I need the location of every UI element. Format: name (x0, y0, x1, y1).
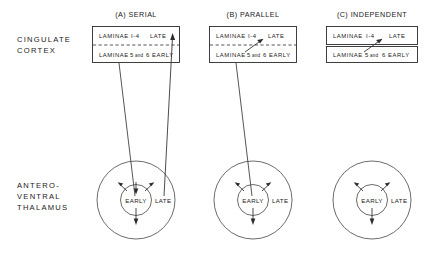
laminae-lower-timing-serial: EARLY (152, 52, 174, 58)
thalamus-radiating-arrows-serial (118, 182, 155, 225)
connection-line-early-parallel (236, 63, 252, 196)
laminae-lower-num1-serial: 5 (130, 52, 134, 58)
cortex-box-independent: LAMINAE I-4 LATE LAMINAE 5 and 6 EARLY (327, 27, 418, 63)
region-label-cingulate-cortex: CINGULATE CORTEX (17, 35, 71, 55)
thalamus-independent: EARLY LATE (333, 161, 411, 239)
thalamus-label-line3: THALAMUS (17, 203, 68, 212)
laminae-upper-timing-independent: LATE (389, 33, 406, 39)
laminae-lower-num2-independent: 6 (382, 52, 386, 58)
radiating-arrow-upleft-head-independent (354, 182, 360, 186)
laminae-lower-conj-parallel: and (252, 53, 261, 58)
panel-title-serial: (A) SERIAL (115, 10, 157, 19)
connection-early-ascending-serial (119, 63, 135, 196)
laminae-upper-label-serial: LAMINAE (99, 33, 129, 39)
thalamus-radiating-arrows-parallel (235, 182, 272, 225)
radiating-arrow-upleft-head-parallel (235, 182, 241, 186)
laminae-upper-timing-serial: LATE (150, 33, 167, 39)
thalamus-radiating-arrows-independent (354, 182, 391, 225)
thalamus-outer-label-independent: LATE (391, 197, 407, 204)
cortex-label-line1: CINGULATE (17, 35, 71, 44)
region-label-anteroventral-thalamus: ANTERO- VENTRAL THALAMUS (17, 181, 68, 212)
thalamus-serial: EARLY LATE (97, 161, 175, 239)
thalamus-label-line1: ANTERO- (17, 181, 60, 190)
radiating-arrow-down-head-parallel (251, 219, 256, 226)
laminae-upper-range-parallel: I-4 (248, 33, 257, 39)
laminae-lower-timing-parallel: EARLY (269, 52, 291, 58)
intracortical-arrow-parallel (245, 39, 264, 52)
laminae-upper-label-parallel: LAMINAE (216, 33, 246, 39)
cortex-label-line2: CORTEX (17, 46, 56, 55)
laminae-lower-num2-serial: 6 (146, 52, 150, 58)
laminae-lower-label-parallel: LAMINAE (216, 52, 246, 58)
radiating-arrow-down-head-independent (370, 219, 375, 226)
laminae-lower-conj-independent: and (370, 53, 379, 58)
cortex-box-serial: LAMINAE I-4 LATE LAMINAE 5 and 6 EARLY (93, 27, 180, 63)
diagram-svg: CINGULATE CORTEX ANTERO- VENTRAL THALAMU… (0, 0, 444, 256)
laminae-lower-num2-parallel: 6 (263, 52, 267, 58)
panel-title-independent: (C) INDEPENDENT (337, 10, 407, 19)
connection-early-ascending-parallel (236, 63, 252, 196)
radiating-arrow-upright-head-independent (385, 182, 391, 186)
thalamus-inner-label-serial: EARLY (125, 197, 147, 204)
panel-serial: (A) SERIAL LAMINAE I-4 LATE LAMINAE 5 an… (93, 10, 180, 239)
radiating-arrow-upleft-head-serial (118, 182, 124, 186)
thalamus-inner-label-parallel: EARLY (242, 197, 264, 204)
laminae-lower-label-independent: LAMINAE (333, 52, 363, 58)
laminae-upper-timing-parallel: LATE (268, 33, 285, 39)
laminae-lower-num1-parallel: 5 (247, 52, 251, 58)
intracortical-arrow-line-parallel (245, 41, 261, 53)
radiating-arrow-upright-head-serial (149, 182, 155, 186)
radiating-arrow-down-head-serial (134, 219, 139, 226)
connection-line-late-serial (164, 37, 173, 196)
laminae-upper-label-independent: LAMINAE (333, 33, 363, 39)
laminae-upper-range-serial: I-4 (131, 33, 140, 39)
intracortical-arrow-independent (364, 39, 383, 52)
panel-parallel: (B) PARALLEL LAMINAE I-4 LATE LAMINAE 5 … (210, 10, 297, 239)
panel-title-parallel: (B) PARALLEL (227, 10, 280, 19)
laminae-lower-timing-independent: EARLY (388, 52, 410, 58)
thalamus-parallel: EARLY LATE (214, 161, 292, 239)
thalamus-label-line2: VENTRAL (17, 192, 61, 201)
figure-canvas: CINGULATE CORTEX ANTERO- VENTRAL THALAMU… (0, 0, 444, 256)
radiating-arrow-upright-head-parallel (266, 182, 272, 186)
thalamus-inner-label-independent: EARLY (361, 197, 383, 204)
laminae-lower-num1-independent: 5 (365, 52, 369, 58)
panel-independent: (C) INDEPENDENT LAMINAE I-4 LATE LAMINAE… (327, 10, 418, 239)
connection-line-early-serial (119, 63, 135, 196)
thalamus-outer-label-serial: LATE (155, 197, 171, 204)
laminae-upper-range-independent: I-4 (366, 33, 375, 39)
thalamus-outer-label-parallel: LATE (272, 197, 288, 204)
laminae-lower-conj-serial: and (135, 53, 144, 58)
laminae-lower-label-serial: LAMINAE (99, 52, 129, 58)
connection-arrowhead-late-serial (170, 33, 175, 40)
cortex-box-parallel: LAMINAE I-4 LATE LAMINAE 5 and 6 EARLY (210, 27, 297, 63)
